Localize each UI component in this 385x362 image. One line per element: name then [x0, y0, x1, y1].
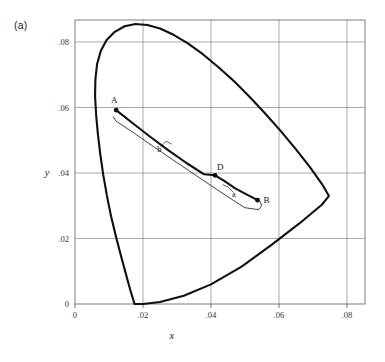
chromaticity-plot: ADBba 0.02.04.06.080.02.04.06.08 xy — [0, 0, 385, 362]
axis-ticks-layer — [75, 304, 347, 308]
point-A-marker — [114, 108, 119, 113]
x-tick-label: .08 — [342, 310, 353, 320]
curve-spectral-locus — [95, 24, 329, 304]
data-points-layer — [114, 108, 260, 203]
annotation-labels-layer: ADBba — [111, 95, 270, 205]
y-tick-label: .04 — [58, 168, 69, 178]
axis-titles-layer: xy — [44, 167, 175, 341]
x-tick-label: .02 — [138, 310, 149, 320]
x-axis-title: x — [169, 330, 175, 341]
y-tick-label: 0 — [65, 299, 69, 309]
y-tick-label: .06 — [58, 103, 69, 113]
y-tick-label: .02 — [58, 234, 69, 244]
x-tick-label: 0 — [73, 310, 77, 320]
curve-planckian-locus-b — [116, 110, 257, 200]
point-B-label: B — [264, 195, 270, 205]
curve-label-a-label: a — [232, 190, 236, 199]
point-D-label: D — [217, 162, 224, 172]
point-D-marker — [213, 173, 218, 178]
y-axis-title: y — [44, 167, 50, 178]
point-B-marker — [255, 198, 260, 203]
x-tick-label: .06 — [274, 310, 285, 320]
curves-layer — [95, 24, 329, 304]
y-tick-label: .08 — [58, 37, 69, 47]
tick-labels-layer: 0.02.04.06.080.02.04.06.08 — [58, 37, 352, 320]
curve-label-b-label: b — [157, 145, 161, 154]
chromaticity-diagram-figure: (a) ADBba 0.02.04.06.080.02.04.06.08 xy — [0, 0, 385, 362]
x-tick-label: .04 — [206, 310, 217, 320]
point-A-label: A — [111, 95, 118, 105]
